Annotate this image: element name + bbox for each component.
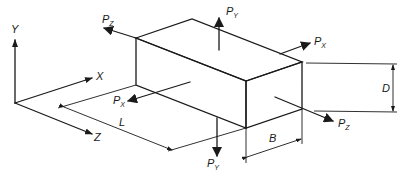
depth-dimension: D [306,63,397,112]
force-px-right: PX [280,35,326,54]
breadth-label: B [269,132,276,144]
svg-text:PX: PX [314,35,326,49]
force-px-left: PX [113,82,190,108]
depth-label: D [382,82,390,94]
y-axis-label: Y [11,23,19,35]
length-label: L [119,116,125,128]
svg-text:PZ: PZ [338,117,350,131]
svg-text:PY: PY [226,5,239,19]
svg-text:PZ: PZ [102,13,114,27]
x-axis [15,78,92,103]
beam-force-diagram: Y X Z L B D PY PY [0,0,405,177]
coordinate-axes: Y X Z [11,23,104,143]
z-axis-label: Z [93,131,102,143]
force-pz-left: PZ [102,13,136,38]
svg-text:PX: PX [113,94,125,108]
z-axis [15,103,92,134]
force-py-bottom: PY [207,118,220,171]
length-dimension: L [58,85,246,151]
breadth-dimension: B [246,109,302,163]
force-py-top: PY [219,5,239,50]
svg-text:PY: PY [207,157,220,171]
x-axis-label: X [95,70,104,82]
